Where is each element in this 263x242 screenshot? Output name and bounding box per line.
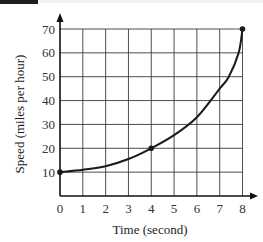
y-axis-label: Speed (miles per hour) xyxy=(12,55,27,174)
y-tick-label: 40 xyxy=(42,93,55,108)
y-tick-label: 60 xyxy=(42,45,55,60)
x-tick-label: 4 xyxy=(148,201,155,216)
data-point-marker xyxy=(240,26,246,32)
y-tick-label: 10 xyxy=(42,165,55,180)
speed-time-chart: 012345678 10203040506070 Time (second) S… xyxy=(0,0,263,242)
y-tick-label: 70 xyxy=(42,22,55,37)
y-axis-arrow-icon xyxy=(57,13,64,22)
x-tick-label: 1 xyxy=(80,201,87,216)
x-tick-label: 3 xyxy=(125,201,132,216)
y-tick-label: 20 xyxy=(42,141,55,156)
x-tick-label: 8 xyxy=(239,201,246,216)
y-tick-label: 50 xyxy=(42,69,55,84)
x-tick-label: 6 xyxy=(194,201,201,216)
x-tick-label: 7 xyxy=(216,201,223,216)
y-tick-label: 30 xyxy=(42,117,55,132)
x-tick-labels: 012345678 xyxy=(57,201,246,216)
y-tick-labels: 10203040506070 xyxy=(42,22,55,180)
data-point-marker xyxy=(57,169,63,175)
grid-lines xyxy=(60,29,243,196)
x-tick-label: 2 xyxy=(102,201,109,216)
axes xyxy=(57,13,259,200)
x-axis-arrow-icon xyxy=(250,193,258,200)
data-point-marker xyxy=(148,145,154,151)
x-axis-label: Time (second) xyxy=(113,222,188,237)
x-tick-label: 5 xyxy=(171,201,178,216)
x-tick-label: 0 xyxy=(57,201,64,216)
